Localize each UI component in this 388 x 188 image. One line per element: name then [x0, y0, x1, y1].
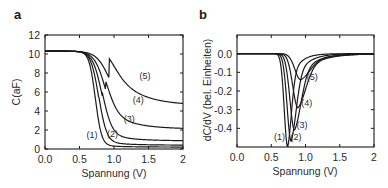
- curve-label-2: (2): [107, 129, 118, 139]
- panel-a-y-axis-label: C(aF): [10, 79, 22, 106]
- y-tick-label: 8: [34, 67, 40, 79]
- x-tick-label: 0.0: [230, 151, 245, 163]
- x-tick-label: 1.5: [141, 153, 156, 165]
- y-tick-label: -0.1: [214, 66, 232, 78]
- y-tick-label: 2: [34, 124, 40, 136]
- panel-a-chart: a 0.00.51.01.52024681012 (1)(2)(3)(4)(5)…: [10, 7, 186, 179]
- x-tick-label: 1.0: [107, 153, 122, 165]
- curve-4: [45, 51, 183, 128]
- x-tick-label: 2: [371, 151, 377, 163]
- y-tick-label: -0.4: [214, 122, 232, 134]
- y-tick-label: 12: [28, 29, 40, 41]
- panel-b-chart: b 0.00.51.01.520.0-0.1-0.2-0.3-0.4 (1)(2…: [199, 7, 377, 177]
- panel-b-curve-labels: (1)(2)(3)(4)(5): [274, 72, 318, 142]
- curve-label-4: (4): [301, 98, 312, 108]
- curve-label-3: (3): [124, 114, 135, 124]
- curve-label-5: (5): [307, 72, 318, 82]
- x-tick-label: 0.5: [72, 153, 87, 165]
- x-tick-label: 1.5: [332, 151, 347, 163]
- curve-5: [45, 51, 183, 103]
- curve-label-2: (2): [290, 132, 301, 142]
- curve-label-5: (5): [140, 71, 151, 81]
- y-tick-label: 0.0: [217, 48, 232, 60]
- panel-b-y-axis-label: dC/dV (bel. Einheiten): [201, 39, 213, 142]
- figure: a 0.00.51.01.52024681012 (1)(2)(3)(4)(5)…: [0, 0, 388, 188]
- curve-label-3: (3): [297, 120, 308, 130]
- y-tick-label: -0.2: [214, 85, 232, 97]
- curve-label-1: (1): [86, 130, 97, 140]
- y-tick-label: -0.3: [214, 104, 232, 116]
- panel-b-label: b: [199, 7, 207, 22]
- panel-a-label: a: [14, 7, 22, 22]
- x-tick-label: 0.5: [264, 151, 279, 163]
- panel-b-x-axis-label: Spannung (V): [273, 165, 338, 177]
- y-tick-label: 4: [34, 105, 40, 117]
- curve-label-1: (1): [274, 132, 285, 142]
- y-tick-label: 10: [28, 48, 40, 60]
- x-tick-label: 2: [180, 153, 186, 165]
- y-tick-label: 0: [34, 143, 40, 155]
- y-tick-label: 6: [34, 86, 40, 98]
- x-tick-label: 1.0: [298, 151, 313, 163]
- panel-a-x-axis-label: Spannung (V): [82, 167, 147, 179]
- curve-label-4: (4): [133, 95, 144, 105]
